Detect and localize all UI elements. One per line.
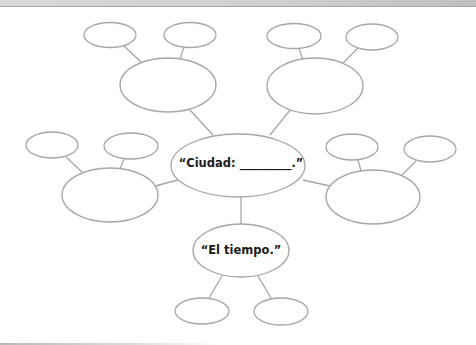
connector-bottom-child-1 [209, 276, 222, 298]
connector-top-left-child-1 [124, 46, 141, 62]
right-child-node-1 [326, 134, 378, 160]
bottom-child-node-2 [254, 298, 308, 325]
top-right-branch-node [267, 58, 363, 114]
left-branch-node [62, 168, 158, 222]
top-right-child-node-2 [346, 24, 398, 50]
connector-bottom-child-2 [258, 276, 271, 298]
right-child-node-2 [404, 136, 456, 162]
top-left-branch-node [120, 58, 216, 112]
connector-center-top-left [189, 109, 213, 135]
connector-right-child-1 [358, 160, 361, 171]
connector-top-right-child-1 [299, 48, 303, 60]
connector-left-child-1 [66, 157, 82, 172]
top-right-child-node-1 [267, 24, 321, 49]
right-branch-node [326, 170, 420, 224]
word-web-diagram: “Ciudad: _________.” “El tiempo.” [0, 0, 476, 345]
left-child-node-2 [104, 133, 158, 159]
top-left-child-node-1 [84, 23, 136, 48]
connector-left-child-2 [120, 159, 124, 169]
bottom-branch-node-label: “El tiempo.” [201, 243, 282, 257]
connector-center-right [303, 180, 330, 186]
top-left-child-node-2 [164, 23, 216, 48]
connector-center-top-right [270, 109, 291, 135]
connector-center-left [155, 180, 178, 186]
left-child-node-1 [26, 132, 78, 158]
connector-top-left-child-2 [180, 47, 184, 59]
connector-top-right-child-2 [342, 48, 358, 64]
center-node-label: “Ciudad: _________.” [179, 156, 304, 171]
bottom-child-node-1 [175, 298, 229, 324]
